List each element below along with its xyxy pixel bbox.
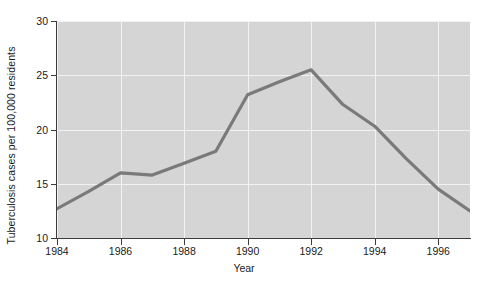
x-tick-mark: [311, 239, 312, 245]
x-tick-label: 1990: [236, 245, 259, 257]
y-tick-mark: [51, 75, 57, 76]
y-tick-mark: [51, 130, 57, 131]
x-tick-label: 1984: [45, 245, 68, 257]
y-tick-mark: [51, 184, 57, 185]
x-tick-mark: [57, 239, 58, 245]
x-tick-label: 1996: [427, 245, 450, 257]
x-tick-label: 1992: [299, 245, 322, 257]
chart-figure: Tuberculosis cases per 100,000 residents…: [0, 0, 488, 291]
x-tick-mark: [121, 239, 122, 245]
x-axis-tick-labels: 1984198619881990199219941996: [0, 0, 488, 291]
x-tick-mark: [248, 239, 249, 245]
x-tick-mark: [375, 239, 376, 245]
x-tick-label: 1988: [172, 245, 195, 257]
x-axis-title: Year: [0, 262, 488, 274]
x-tick-label: 1994: [363, 245, 386, 257]
x-tick-mark: [184, 239, 185, 245]
x-tick-mark: [438, 239, 439, 245]
y-tick-mark: [51, 238, 57, 239]
y-tick-mark: [51, 21, 57, 22]
x-tick-label: 1986: [109, 245, 132, 257]
